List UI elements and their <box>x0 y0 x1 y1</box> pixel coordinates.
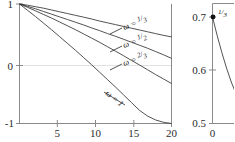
label-frac-den-2-3: 3 <box>141 52 148 61</box>
marker-frac-den: 3 <box>222 11 227 19</box>
marker-label-one-third: 1/3 <box>218 8 227 19</box>
curve-omega-1 <box>20 4 172 124</box>
label-frac-den-1-2: 2 <box>142 34 148 43</box>
label-frac-den-1-3: 3 <box>141 16 148 25</box>
curve-label-omega-2-3: ω = 2/3 <box>121 49 149 68</box>
curve-omega-1-3 <box>20 4 172 37</box>
xtick-label-10: 10 <box>90 127 102 139</box>
xtick-label-5: 5 <box>55 127 61 139</box>
ytick-label-0-5: 0.5 <box>192 117 206 129</box>
curve-detail-omega-1-3 <box>213 17 235 119</box>
right-panel: 0.7 0.6 0.5 0 1/3 <box>180 0 234 142</box>
leader-line-omega-2-3 <box>110 64 122 70</box>
left-panel: 1 0 -1 5 10 15 20 ω = 1/3 <box>0 0 180 142</box>
curve-omega-1-2 <box>20 4 172 58</box>
ytick-label-1: 1 <box>8 0 14 10</box>
right-panel-svg: 0.7 0.6 0.5 0 1/3 <box>180 0 234 142</box>
right-panel-axis-frame <box>213 4 235 125</box>
ytick-label-0: 0 <box>8 60 14 72</box>
curve-label-omega-1: ω = 1 <box>104 88 126 109</box>
xtick-label-20: 20 <box>166 127 178 139</box>
figure-container: 1 0 -1 5 10 15 20 ω = 1/3 <box>0 0 234 142</box>
curve-omega-2-3 <box>20 4 172 83</box>
xtick-label-0: 0 <box>210 127 216 139</box>
ytick-label-neg1: -1 <box>5 117 14 129</box>
ytick-label-0-7: 0.7 <box>192 11 206 23</box>
ytick-label-0-6: 0.6 <box>192 64 206 76</box>
marker-point-0-7 <box>211 15 216 20</box>
svg-text:ω = 2/3: ω = 2/3 <box>121 49 149 68</box>
xtick-label-15: 15 <box>128 127 140 139</box>
svg-text:ω = 1: ω = 1 <box>104 88 126 109</box>
left-panel-svg: 1 0 -1 5 10 15 20 ω = 1/3 <box>0 0 180 142</box>
leader-line-omega-1-3 <box>110 28 122 34</box>
